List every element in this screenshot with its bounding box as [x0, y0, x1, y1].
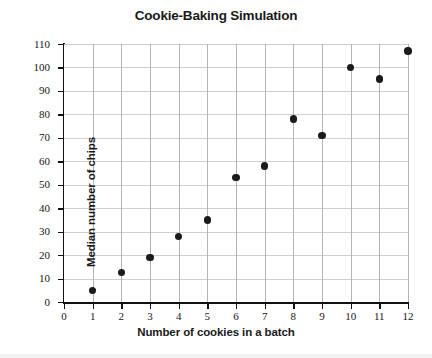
data-point	[404, 47, 412, 55]
y-tick-label: 60	[22, 156, 50, 167]
data-point	[318, 132, 326, 140]
y-tick-label: 100	[22, 62, 50, 73]
gridline-vertical	[207, 44, 208, 302]
x-tick-label: 11	[367, 311, 391, 322]
gridline-vertical	[179, 44, 180, 302]
y-tick-label: 110	[22, 39, 50, 50]
x-tick-label: 7	[253, 311, 277, 322]
gridline-vertical	[121, 44, 122, 302]
x-tick-mark	[150, 303, 151, 309]
y-axis-tick-labels: 0102030405060708090100110	[22, 0, 50, 358]
x-tick-mark	[379, 303, 380, 309]
data-point	[146, 254, 154, 262]
x-tick-label: 1	[81, 311, 105, 322]
y-tick-label: 70	[22, 132, 50, 143]
bottom-strip	[0, 354, 432, 358]
x-tick-mark	[236, 303, 237, 309]
y-tick-label: 20	[22, 250, 50, 261]
chart-title: Cookie-Baking Simulation	[0, 8, 432, 23]
x-tick-label: 12	[396, 311, 420, 322]
x-tick-mark	[265, 303, 266, 309]
data-point	[118, 269, 126, 277]
y-tick-label: 50	[22, 179, 50, 190]
x-tick-label: 2	[109, 311, 133, 322]
x-tick-mark	[207, 303, 208, 309]
gridline-vertical	[265, 44, 266, 302]
data-point	[232, 174, 240, 182]
data-point	[290, 115, 298, 123]
y-tick-label: 80	[22, 109, 50, 120]
x-tick-label: 6	[224, 311, 248, 322]
data-point	[376, 75, 384, 83]
x-tick-label: 5	[195, 311, 219, 322]
x-tick-label: 0	[52, 311, 76, 322]
gridline-vertical	[150, 44, 151, 302]
x-tick-mark	[64, 303, 65, 309]
x-tick-mark	[121, 303, 122, 309]
x-tick-label: 4	[167, 311, 191, 322]
gridline-vertical	[293, 44, 294, 302]
y-tick-label: 90	[22, 85, 50, 96]
gridline-vertical	[351, 44, 352, 302]
y-tick-label: 10	[22, 273, 50, 284]
y-tick-label: 30	[22, 226, 50, 237]
gridline-vertical	[322, 44, 323, 302]
scatter-chart-figure: Cookie-Baking Simulation 010203040506070…	[0, 0, 432, 358]
x-tick-mark	[322, 303, 323, 309]
x-tick-label: 3	[138, 311, 162, 322]
data-point	[204, 216, 212, 224]
x-tick-mark	[351, 303, 352, 309]
data-point	[175, 233, 183, 241]
x-axis-line	[63, 302, 409, 304]
plot-area: Median number of chips	[64, 44, 408, 302]
x-tick-mark	[179, 303, 180, 309]
data-point	[347, 64, 355, 72]
x-axis-title: Number of cookies in a batch	[0, 326, 432, 338]
gridline-vertical	[408, 44, 409, 302]
x-tick-label: 10	[339, 311, 363, 322]
y-tick-label: 0	[22, 297, 50, 308]
x-tick-label: 9	[310, 311, 334, 322]
x-tick-mark	[293, 303, 294, 309]
x-tick-mark	[408, 303, 409, 309]
y-axis-title: Median number of chips	[85, 102, 97, 302]
x-tick-label: 8	[281, 311, 305, 322]
data-point	[261, 162, 269, 170]
y-tick-label: 40	[22, 203, 50, 214]
x-tick-mark	[93, 303, 94, 309]
